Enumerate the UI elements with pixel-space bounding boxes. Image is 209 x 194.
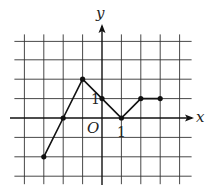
y-unit-label: 1 [91, 91, 100, 107]
data-point [138, 96, 143, 101]
function-graph: x y O 1 1 [0, 0, 209, 194]
data-point [119, 115, 124, 120]
origin-label: O [87, 119, 99, 137]
data-point [99, 96, 104, 101]
data-point [41, 154, 46, 159]
x-axis-label: x [196, 108, 205, 126]
data-point [61, 115, 66, 120]
x-unit-label: 1 [117, 124, 126, 140]
data-point [158, 96, 163, 101]
y-axis-label: y [95, 4, 105, 22]
grid-lines [14, 34, 191, 184]
data-point [80, 77, 85, 82]
axes [10, 26, 192, 185]
